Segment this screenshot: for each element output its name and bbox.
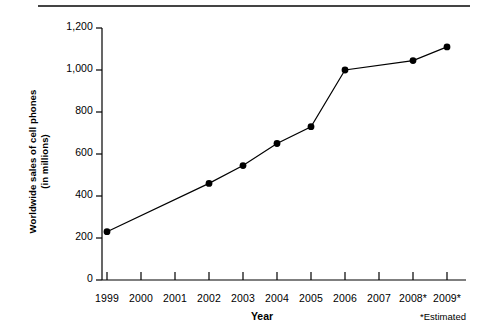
plot-area: [0, 0, 492, 336]
data-point-1999: [104, 228, 111, 235]
data-point-2006: [342, 67, 349, 74]
line-chart: Worldwide sales of cell phones (in milli…: [0, 0, 492, 336]
data-point-2009: [444, 44, 451, 51]
data-point-2003: [240, 162, 247, 169]
data-point-2008: [410, 57, 417, 64]
series-line: [107, 47, 447, 232]
data-point-2005: [308, 123, 315, 130]
data-point-2002: [206, 180, 213, 187]
y-axis-ticks: [96, 28, 102, 280]
x-axis-ticks: [107, 272, 447, 280]
series-markers: [104, 44, 451, 236]
data-point-2004: [274, 140, 281, 147]
